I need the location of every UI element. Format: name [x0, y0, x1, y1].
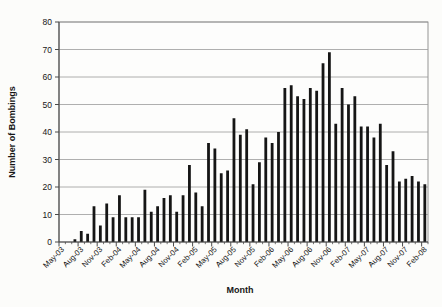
chart-canvas: 01020304050607080May-03Aug-03Nov-03Feb-0…	[0, 0, 442, 307]
y-tick-label: 60	[43, 72, 53, 82]
bar	[137, 217, 140, 242]
x-tick-label: May-03	[41, 245, 66, 270]
x-tick-label: May-07	[347, 245, 372, 270]
x-tick-label: Nov-06	[309, 245, 333, 269]
y-tick-label: 0	[47, 237, 52, 247]
bar	[283, 88, 286, 242]
bar	[366, 127, 369, 243]
bar	[143, 190, 146, 242]
bar	[169, 195, 172, 242]
bar	[86, 234, 89, 242]
bar	[264, 138, 267, 243]
bar	[233, 118, 236, 242]
bar	[124, 217, 127, 242]
x-tick-label: May-05	[194, 245, 219, 270]
x-tick-label: Nov-07	[386, 245, 410, 269]
x-tick-label: Nov-03	[80, 245, 104, 269]
y-tick-label: 80	[43, 17, 53, 27]
bar	[207, 143, 210, 242]
y-tick-label: 30	[43, 155, 53, 165]
bar	[290, 85, 293, 242]
bar	[258, 162, 261, 242]
x-tick-label: May-06	[270, 245, 295, 270]
y-axis-title: Number of Bombings	[7, 86, 17, 178]
bar	[309, 88, 312, 242]
bar	[99, 226, 102, 243]
bar	[131, 217, 134, 242]
y-tick-label: 10	[43, 210, 53, 220]
bar	[360, 127, 363, 243]
bar	[353, 96, 356, 242]
x-tick-label: Nov-05	[233, 245, 258, 270]
bar	[93, 206, 96, 242]
bar	[404, 179, 407, 242]
bar	[118, 195, 121, 242]
bar	[112, 217, 115, 242]
bar	[315, 91, 318, 242]
bar	[220, 173, 223, 242]
bar	[423, 184, 426, 242]
bar	[277, 132, 280, 242]
y-tick-label: 50	[43, 100, 53, 110]
bar	[156, 206, 159, 242]
bar	[175, 212, 178, 242]
bar	[322, 63, 325, 242]
y-tick-label: 20	[43, 182, 53, 192]
bar	[328, 52, 331, 242]
bar	[213, 149, 216, 243]
bar	[163, 198, 166, 242]
bar	[252, 184, 255, 242]
bar	[245, 129, 248, 242]
bar	[271, 143, 274, 242]
bar	[201, 206, 204, 242]
x-axis-title: Month	[227, 285, 254, 295]
bar	[373, 138, 376, 243]
bar	[385, 165, 388, 242]
bar	[379, 124, 382, 242]
bar	[303, 99, 306, 242]
y-tick-label: 40	[43, 127, 53, 137]
bar	[417, 182, 420, 243]
bar	[226, 171, 229, 243]
bombings-bar-chart: 01020304050607080May-03Aug-03Nov-03Feb-0…	[0, 0, 442, 307]
x-tick-label: Feb-08	[405, 245, 429, 269]
bar	[239, 135, 242, 242]
bar	[194, 193, 197, 243]
bar	[296, 96, 299, 242]
bar	[341, 88, 344, 242]
bar	[105, 204, 108, 243]
bar	[188, 165, 191, 242]
y-tick-label: 70	[43, 45, 53, 55]
x-tick-label: May-04	[118, 245, 143, 270]
bar	[398, 182, 401, 243]
x-tick-label: Nov-04	[156, 245, 181, 270]
bar	[347, 105, 350, 243]
bar	[150, 212, 153, 242]
bar	[182, 195, 185, 242]
bar	[334, 124, 337, 242]
bar	[80, 231, 83, 242]
bar	[392, 151, 395, 242]
bar	[411, 176, 414, 242]
